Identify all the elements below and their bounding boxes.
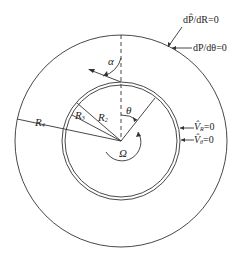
label-r3-symbol: R bbox=[75, 109, 82, 121]
alpha-arc-arrowhead bbox=[103, 71, 108, 76]
bc-inner-1-eq: =0 bbox=[204, 121, 215, 132]
bc-inner-label-2: V̂θ=0 bbox=[194, 135, 214, 145]
label-alpha: α bbox=[108, 56, 114, 67]
label-r3: R3 bbox=[75, 110, 85, 121]
label-r4: R4 bbox=[35, 117, 45, 128]
label-r2-symbol: R bbox=[98, 111, 105, 123]
label-theta: θ bbox=[126, 105, 131, 116]
label-r2-sub: 2 bbox=[105, 117, 108, 123]
label-omega: Ω bbox=[119, 148, 127, 159]
label-r3-sub: 3 bbox=[82, 115, 85, 121]
label-r4-symbol: R bbox=[35, 116, 42, 128]
bc-inner-arrowhead-2 bbox=[181, 138, 185, 142]
bc-inner-label-1: V̂R=0 bbox=[194, 122, 214, 132]
bc-outer-label-1: dP̂/dR=0 bbox=[183, 15, 219, 25]
bc-outer-label-2: dP/dθ=0 bbox=[193, 43, 227, 53]
label-r4-sub: 4 bbox=[42, 122, 45, 128]
label-r2: R2 bbox=[98, 112, 108, 123]
bc-inner-2-eq: =0 bbox=[203, 134, 214, 145]
alpha-arrowhead bbox=[88, 69, 95, 73]
bc-inner-arrowhead-1 bbox=[180, 126, 184, 130]
